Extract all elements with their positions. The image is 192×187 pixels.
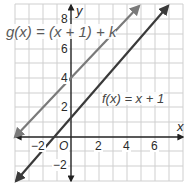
y-tick-6: 6 <box>60 43 69 55</box>
x-tick-neg2: −2 <box>30 140 46 152</box>
x-tick-2: 2 <box>94 140 103 152</box>
f-equation-label: f(x) = x + 1 <box>102 92 164 105</box>
y-axis-label: y <box>76 4 83 17</box>
y-tick-2: 2 <box>60 101 69 113</box>
origin-label: O <box>58 140 69 152</box>
x-tick-6: 6 <box>150 140 159 152</box>
x-tick-4: 4 <box>122 140 131 152</box>
x-axis-label: x <box>177 120 184 133</box>
g-equation-label: g(x) = (x + 1) + k <box>6 24 116 39</box>
y-tick-4: 4 <box>60 72 69 84</box>
y-tick-neg2: −2 <box>52 159 68 171</box>
